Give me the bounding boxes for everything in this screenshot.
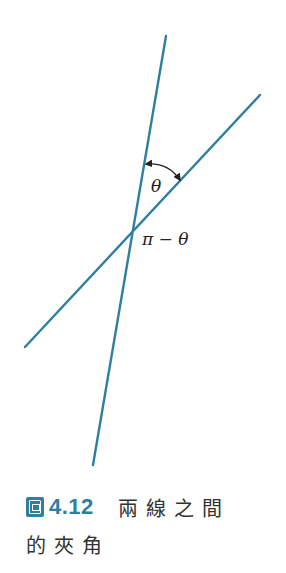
shallow-line [25,95,260,347]
figure-title-part1: 兩線之間 [118,493,230,522]
theta-label: θ [151,176,161,196]
pi-minus-theta-label: π − θ [141,229,188,249]
figure-icon [26,497,44,517]
figure-caption: 4.12 兩線之間 的夾角 [26,492,276,559]
steep-line [93,36,166,465]
figure-title-part2: 的夾角 [26,530,276,559]
figure-number: 4.12 [49,494,94,520]
angle-diagram: θ π − θ [0,0,286,480]
